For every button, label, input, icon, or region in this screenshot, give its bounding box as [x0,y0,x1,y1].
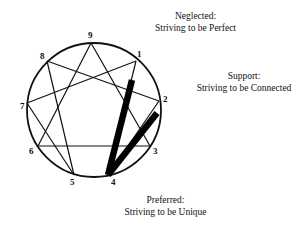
preferred-text: Striving to be Unique [113,206,218,218]
point-number-4: 4 [111,177,116,187]
preferred-title: Preferred: [113,194,218,206]
point-number-8: 8 [40,51,45,61]
enneagram-point-numbers: 123456789 [20,30,168,187]
preferred-label: Preferred: Striving to be Unique [113,194,218,218]
point-number-3: 3 [153,146,158,156]
point-number-7: 7 [20,101,25,111]
enneagram-thick-bars [108,80,157,175]
support-text: Striving to be Connected [184,82,304,94]
point-number-6: 6 [29,146,34,156]
point-number-5: 5 [70,177,75,187]
line-6-9 [38,43,91,146]
neglected-label: Neglected: Striving to be Perfect [143,10,248,34]
line-8-5 [47,61,74,175]
neglected-text: Striving to be Perfect [143,22,248,34]
point-number-2: 2 [163,94,168,104]
support-label: Support: Striving to be Connected [184,70,304,94]
neglected-title: Neglected: [143,10,248,22]
support-title: Support: [184,70,304,82]
point-number-1: 1 [137,49,142,59]
point-number-9: 9 [88,30,93,40]
